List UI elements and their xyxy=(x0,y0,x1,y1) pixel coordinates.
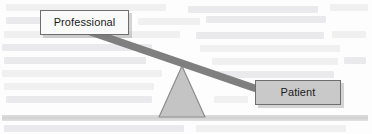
bleed-through-line xyxy=(206,16,326,23)
bleed-through-line xyxy=(4,57,146,64)
fulcrum-triangle xyxy=(157,65,207,118)
bleed-through-line xyxy=(2,44,152,51)
bleed-through-line xyxy=(188,6,318,13)
bleed-through-line xyxy=(200,45,340,52)
bleed-through-line xyxy=(196,32,324,39)
fulcrum-polygon xyxy=(159,66,205,117)
label-box-patient[interactable]: Patient xyxy=(255,80,341,105)
bleed-through-line xyxy=(344,57,366,64)
bleed-through-line xyxy=(212,58,338,65)
bleed-through-line xyxy=(330,4,368,11)
bleed-through-line xyxy=(6,96,152,103)
bleed-through-line xyxy=(214,96,248,103)
bleed-through-line xyxy=(2,70,162,77)
bleed-through-line xyxy=(332,31,366,38)
bleed-through-line xyxy=(214,71,334,78)
label-professional-text: Professional xyxy=(54,17,116,28)
seesaw-diagram: Professional Patient xyxy=(0,0,372,134)
label-box-professional[interactable]: Professional xyxy=(40,10,129,35)
bleed-through-line xyxy=(196,125,346,132)
label-patient-text: Patient xyxy=(281,87,316,98)
bleed-through-line xyxy=(4,83,154,90)
bleed-through-line xyxy=(138,18,200,25)
bleed-through-line xyxy=(4,125,184,132)
